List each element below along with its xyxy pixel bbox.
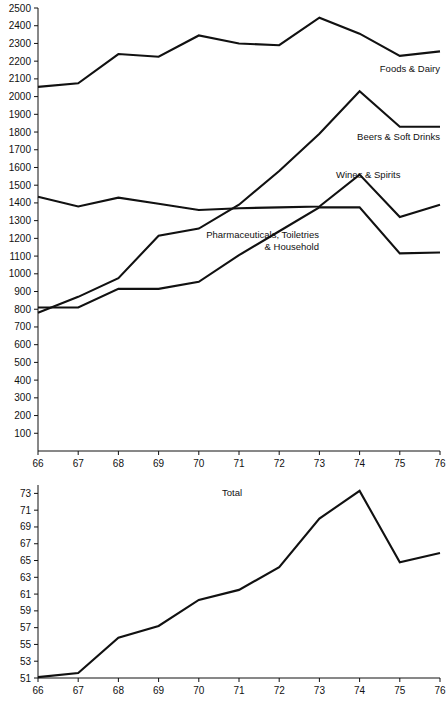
top-chart-y-tick-label: 1100 [9,251,31,262]
bottom-chart-panel: 5153555759616365676971736667686970717273… [0,470,446,725]
top-chart-y-tick-label: 2300 [9,38,32,49]
bottom-chart-series-group [38,491,440,677]
bottom-chart-y-tick-label: 55 [20,639,32,650]
bottom-chart-x-tick-label: 71 [233,685,245,696]
top-chart-series-labels: Foods & DairyBeers & Soft DrinksWines & … [206,63,440,252]
bottom-chart-x-tick-label: 73 [314,685,326,696]
top-chart-x-tick-label: 69 [153,458,165,469]
series-line-3 [38,207,440,307]
total-label: Total [222,487,242,498]
series-label-2: Wines & Spirits [336,169,401,180]
bottom-chart-x-tick-label: 67 [73,685,85,696]
top-chart-y-tick-label: 100 [14,428,31,439]
top-chart-y-tick-label: 600 [14,339,31,350]
top-chart-y-tick-label: 200 [14,410,31,421]
series-label-1: Beers & Soft Drinks [357,131,440,142]
series-label-line: & Household [265,241,319,252]
top-chart-y-tick-label: 1600 [9,162,32,173]
bottom-chart-y-tick-label: 67 [20,538,32,549]
bottom-chart-y-tick-label: 71 [20,505,32,516]
bottom-chart-y-tick-label: 59 [20,605,32,616]
bottom-chart-y-tick-label: 65 [20,555,32,566]
top-chart-y-tick-label: 2000 [9,91,32,102]
bottom-chart-x-tick-label: 69 [153,685,165,696]
bottom-chart-title-label: Total [222,487,242,498]
bottom-chart-y-tick-label: 61 [20,589,32,600]
bottom-chart-x-tick-label: 72 [274,685,286,696]
bottom-chart-x-tick-label: 70 [193,685,205,696]
bottom-chart-y-tick-label: 53 [20,656,32,667]
bottom-chart-x-tick-label: 76 [434,685,446,696]
top-chart-x-tick-label: 76 [434,458,446,469]
bottom-chart-y-tick-label: 63 [20,572,32,583]
top-chart-x-tick-label: 72 [274,458,286,469]
top-chart-y-tick-label: 400 [14,375,31,386]
top-chart-x-tick-label: 73 [314,458,326,469]
top-chart-y-tick-label: 2500 [9,3,32,14]
top-chart-y-tick-label: 2100 [9,73,32,84]
series-label-line: Pharmaceuticals, Toiletries [206,229,319,240]
top-chart-panel: 1002003004005006007008009001000110012001… [0,0,446,470]
top-chart-x-tick-label: 70 [193,458,205,469]
bottom-chart-x-tick-label: 75 [394,685,406,696]
bottom-chart-y-tick-label: 57 [20,622,32,633]
top-chart-y-tick-label: 2200 [9,56,32,67]
bottom-chart-x-tick-label: 74 [354,685,366,696]
top-chart-series-group [38,18,440,313]
top-chart-x-tick-label: 74 [354,458,366,469]
top-chart-y-tick-label: 700 [14,321,31,332]
top-chart-y-tick-label: 1700 [9,144,32,155]
top-chart-y-tick-label: 1000 [9,268,32,279]
total-series-line [38,491,440,677]
top-chart-y-tick-label: 1500 [9,180,32,191]
top-chart-y-tick-label: 1400 [9,197,32,208]
top-chart-y-tick-label: 900 [14,286,31,297]
two-panel-line-chart-figure: 1002003004005006007008009001000110012001… [0,0,446,725]
top-chart-y-tick-label: 800 [14,304,31,315]
top-chart-y-tick-label: 1200 [9,233,32,244]
bottom-chart-y-tick-label: 73 [20,488,32,499]
top-chart-x-tick-label: 66 [32,458,44,469]
bottom-chart-x-tick-label: 68 [113,685,125,696]
top-chart-y-tick-label: 2400 [9,20,32,31]
top-chart-x-tick-label: 67 [73,458,85,469]
top-chart-y-tick-label: 1800 [9,127,32,138]
top-chart-y-tick-label: 500 [14,357,31,368]
series-label-0: Foods & Dairy [380,63,440,74]
bottom-chart-x-tick-label: 66 [32,685,44,696]
series-line-0 [38,18,440,87]
top-chart-x-tick-label: 75 [394,458,406,469]
top-chart-x-tick-label: 71 [233,458,245,469]
top-chart-y-tick-label: 1300 [9,215,32,226]
series-line-2 [38,175,440,218]
bottom-chart-y-tick-label: 69 [20,521,32,532]
top-chart-y-tick-label: 1900 [9,109,32,120]
top-chart-y-tick-label: 300 [14,392,31,403]
top-chart-x-tick-label: 68 [113,458,125,469]
bottom-chart-y-tick-label: 51 [20,673,32,684]
